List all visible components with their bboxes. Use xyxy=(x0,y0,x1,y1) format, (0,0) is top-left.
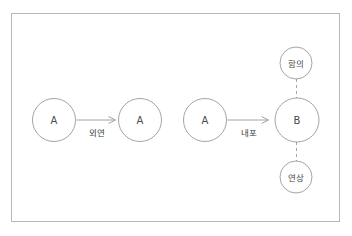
edge-extension-label: 외연 xyxy=(89,128,105,138)
edge-intension-label: 내포 xyxy=(241,128,257,138)
node-b1-label: B xyxy=(294,115,301,126)
node-hamui-label: 함의 xyxy=(288,59,304,69)
node-a2-label: A xyxy=(137,115,144,126)
group-extension: 외연 A A xyxy=(33,99,162,142)
diagram-figure: A ===== --> 외연 A A B with dashed branche… xyxy=(0,0,352,236)
node-yeonsang-label: 연상 xyxy=(288,173,304,183)
group-intension: 내포 A B 함의 연상 xyxy=(184,47,320,193)
node-a1-label: A xyxy=(51,115,58,126)
node-a3-label: A xyxy=(202,115,209,126)
diagram-canvas: A ===== --> 외연 A A B with dashed branche… xyxy=(0,0,352,236)
